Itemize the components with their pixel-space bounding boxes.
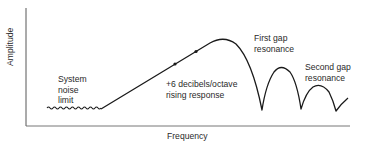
second-gap-annotation: Second gap resonance [305, 62, 351, 83]
slope-annotation: +6 decibels/octave rising response [166, 79, 237, 100]
noise-limit-annotation: System noise limit [58, 74, 87, 106]
slope-point-1 [173, 62, 176, 65]
slope-point-2 [194, 50, 197, 53]
noise-floor-curve [47, 107, 101, 109]
x-axis-label: Frequency [167, 131, 208, 142]
first-gap-annotation: First gap resonance [254, 33, 294, 54]
y-axis-label: Amplitude [5, 28, 15, 66]
